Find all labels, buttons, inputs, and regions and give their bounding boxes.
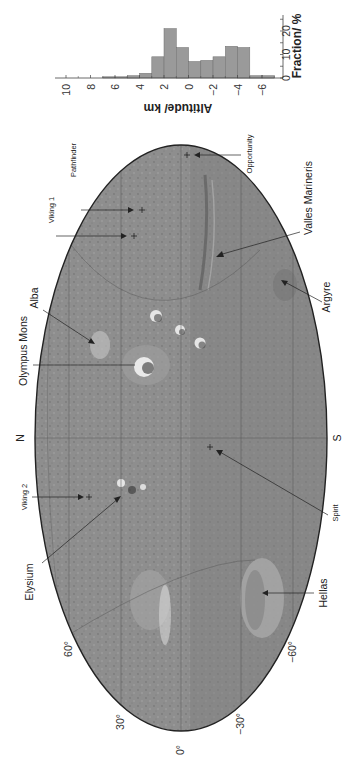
histogram-bar bbox=[238, 48, 250, 79]
histogram-bar bbox=[152, 57, 164, 78]
svg-text:Spirit: Spirit bbox=[331, 504, 340, 522]
longitude-label-neg30: −30° bbox=[234, 713, 246, 735]
altitude-tick-label: 0 bbox=[183, 84, 195, 90]
svg-text:Valles Marineris: Valles Marineris bbox=[302, 161, 314, 235]
altitude-tick-label: −4 bbox=[232, 84, 244, 96]
longitude-label-30: 30° bbox=[114, 714, 126, 730]
altitude-tick-label: 6 bbox=[109, 84, 121, 90]
histogram-bar bbox=[213, 57, 225, 78]
svg-text:Alba: Alba bbox=[28, 287, 40, 308]
histogram-bar bbox=[176, 48, 188, 79]
south-label: S bbox=[331, 434, 343, 441]
altitude-tick-label: 4 bbox=[134, 84, 146, 90]
altitude-tick-label: 8 bbox=[85, 84, 97, 90]
svg-text:Hellas: Hellas bbox=[317, 578, 329, 607]
fraction-axis-title: Fraction/ % bbox=[290, 13, 304, 78]
histogram-bar bbox=[164, 29, 176, 78]
longitude-label-60: 60° bbox=[62, 641, 74, 657]
histogram-bar bbox=[189, 62, 201, 78]
altitude-tick-label: 2 bbox=[158, 84, 170, 90]
altitude-tick-label: −2 bbox=[207, 84, 219, 96]
svg-text:Elysium: Elysium bbox=[23, 563, 35, 600]
altitude-histogram: 1086420−2−4−6 01020 Altitude/ km Fractio… bbox=[55, 13, 304, 115]
histogram-bar bbox=[201, 60, 213, 78]
histogram-bars bbox=[103, 29, 274, 79]
longitude-label-neg60: −60° bbox=[286, 641, 298, 663]
altitude-tick-label: −6 bbox=[256, 84, 268, 96]
histogram-bar bbox=[225, 46, 237, 78]
svg-text:Olympus Mons: Olympus Mons bbox=[17, 316, 29, 386]
svg-text:Viking 2: Viking 2 bbox=[20, 484, 29, 511]
mars-map: N S 0° 30° 60° −30° −60° Olympus Mons Al… bbox=[14, 134, 343, 755]
svg-text:Viking 1: Viking 1 bbox=[47, 197, 56, 224]
figure: 1086420−2−4−6 01020 Altitude/ km Fractio… bbox=[0, 0, 354, 760]
altitude-tick-label: 10 bbox=[60, 84, 72, 96]
svg-text:Opportunity: Opportunity bbox=[245, 134, 254, 173]
svg-text:Pathfinder: Pathfinder bbox=[69, 142, 78, 177]
histogram-bar bbox=[140, 73, 152, 78]
north-label: N bbox=[14, 434, 26, 442]
altitude-axis-title: Altitude/ km bbox=[144, 101, 213, 115]
figure-svg: 1086420−2−4−6 01020 Altitude/ km Fractio… bbox=[0, 0, 354, 760]
longitude-label-0: 0° bbox=[174, 745, 186, 755]
svg-text:Argyre: Argyre bbox=[320, 281, 332, 312]
